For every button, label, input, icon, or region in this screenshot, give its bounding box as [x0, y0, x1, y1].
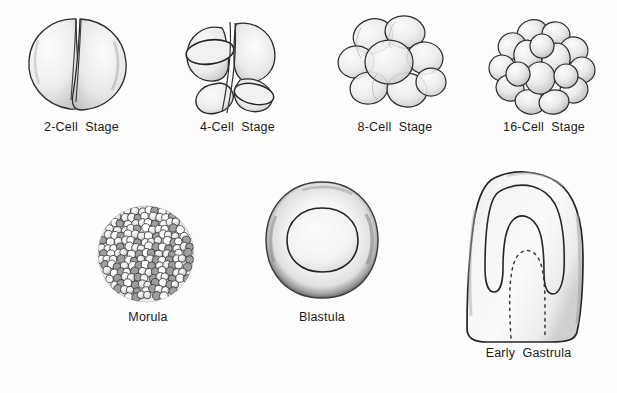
four-cell-drawing	[170, 10, 305, 120]
embryology-figure: 2-Cell Stage	[0, 0, 617, 393]
stage-morula-label: Morula	[88, 310, 208, 324]
stage-blastula: Blastula	[258, 176, 386, 310]
stage-four-cell: 4-Cell Stage	[170, 10, 305, 120]
stage-early-gastrula-label: Early Gastrula	[447, 346, 610, 360]
stage-four-cell-label: 4-Cell Stage	[170, 120, 305, 134]
stage-morula: Morula	[88, 198, 208, 310]
stage-early-gastrula: Early Gastrula	[447, 166, 610, 352]
stage-two-cell-label: 2-Cell Stage	[14, 120, 149, 134]
stage-blastula-label: Blastula	[258, 310, 386, 324]
two-cell-drawing	[14, 10, 149, 120]
stage-two-cell: 2-Cell Stage	[14, 10, 149, 120]
eight-cell-drawing	[325, 8, 465, 120]
stage-eight-cell: 8-Cell Stage	[325, 8, 465, 120]
sixteen-cell-drawing	[478, 12, 610, 120]
stage-eight-cell-label: 8-Cell Stage	[325, 120, 465, 134]
stage-sixteen-cell-label: 16-Cell Stage	[478, 120, 610, 134]
morula-drawing	[88, 198, 208, 310]
blastula-drawing	[258, 176, 386, 310]
early-gastrula-drawing	[447, 166, 610, 352]
stage-sixteen-cell: 16-Cell Stage	[478, 12, 610, 120]
